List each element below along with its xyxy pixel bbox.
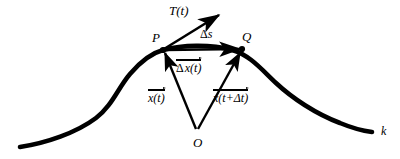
point-p-label: P (152, 31, 160, 44)
delta-s-symbol: Δ (200, 27, 208, 41)
position-vector-xt-text: x(t) (148, 92, 165, 104)
figure-canvas: T(t) Δs P Q Δ x(t) x(t) x(t+Δt) O k (0, 0, 400, 159)
delta-x-delta-symbol: Δ (176, 61, 184, 75)
point-q-label: Q (242, 30, 251, 43)
delta-s-label: Δs (200, 28, 212, 40)
delta-x-vector-text: x(t) (185, 62, 202, 74)
delta-x-label: Δ x(t) (176, 62, 201, 74)
delta-x-vector-arrow (165, 49, 240, 50)
delta-s-text: s (208, 27, 213, 41)
position-vector-xt-dt-label: x(t+Δt) (213, 92, 248, 104)
curve-k-label: k (381, 125, 386, 137)
point-p-marker (160, 47, 166, 53)
origin-label: O (193, 136, 202, 149)
point-q-marker (239, 46, 245, 52)
tangent-vector-label-text: T(t) (169, 4, 189, 17)
tangent-vector-label: T(t) (169, 4, 189, 17)
position-vector-xt-label: x(t) (148, 92, 165, 104)
position-vector-xt-dt-text: x(t+Δt) (213, 92, 248, 104)
